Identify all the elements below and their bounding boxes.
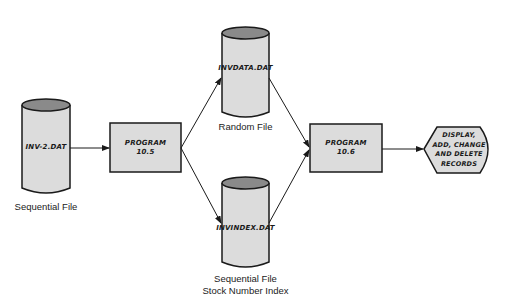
invdata-label: INVDATA.DAT <box>215 64 276 73</box>
prog105-label: PROGRAM 10.5 <box>110 139 181 157</box>
display-line2: ADD, CHANGE <box>428 141 490 151</box>
prog105-line2: 10.5 <box>110 148 181 157</box>
inv2-caption: Sequential File <box>0 201 92 213</box>
prog106-line1: PROGRAM <box>310 139 382 148</box>
prog106-line2: 10.6 <box>310 148 382 157</box>
display-line4: RECORDS <box>428 160 490 170</box>
invindex-caption: Sequential File Stock Number Index <box>190 273 301 297</box>
invindex-caption-line1: Sequential File <box>190 273 301 285</box>
edge-prog105-to-invdata <box>181 78 221 148</box>
edge-prog105-to-invindex <box>181 148 221 223</box>
invindex-caption-line2: Stock Number Index <box>190 285 301 297</box>
prog105-line1: PROGRAM <box>110 139 181 148</box>
edge-invindex-to-prog106 <box>269 150 309 223</box>
edge-invdata-to-prog106 <box>269 78 309 147</box>
display-line1: DISPLAY, <box>428 131 490 141</box>
display-label: DISPLAY, ADD, CHANGE AND DELETE RECORDS <box>428 131 490 169</box>
cylinder-invindex <box>222 177 269 267</box>
invindex-label: INVINDEX.DAT <box>215 224 276 233</box>
display-line3: AND DELETE <box>428 150 490 160</box>
prog106-label: PROGRAM 10.6 <box>310 139 382 157</box>
invdata-caption: Random File <box>200 121 291 133</box>
inv2-label: INV-2.DAT <box>20 143 72 152</box>
